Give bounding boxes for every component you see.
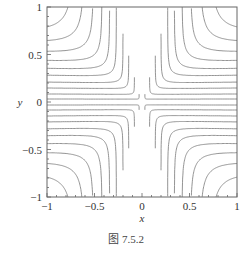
figure-caption: 图 7.5.2	[0, 230, 252, 246]
contour-line	[191, 153, 237, 196]
contour-line	[47, 7, 82, 40]
x-axis-label: x	[139, 212, 145, 224]
contour-line	[47, 164, 82, 197]
contour-line	[216, 6, 238, 27]
y-tick-label: 1	[37, 1, 43, 13]
contour-line	[145, 105, 237, 110]
contour-line	[150, 77, 237, 94]
contour-line	[47, 94, 139, 99]
contour-line	[47, 110, 134, 127]
x-tick-label: 0.5	[183, 200, 197, 212]
y-tick-label: −0.5	[22, 144, 42, 156]
contour-line	[150, 110, 237, 127]
y-axis-label: y	[17, 96, 23, 108]
contour-line	[47, 177, 69, 198]
contour-line	[202, 7, 237, 40]
contour-line	[47, 8, 116, 76]
contour-line	[182, 6, 237, 60]
x-tick-label: 0	[139, 200, 145, 212]
contour-line	[47, 105, 139, 110]
contour-line	[47, 6, 69, 27]
y-tick-label: 0	[37, 96, 43, 108]
contour-line	[182, 144, 237, 198]
contour-plot: −1−0.500.51 −1−0.500.51 x y	[0, 0, 252, 253]
y-tick-labels: −1−0.500.51	[22, 1, 42, 203]
axis-ticks	[47, 7, 237, 197]
contour-line	[145, 94, 237, 99]
contour-line	[168, 128, 237, 196]
x-tick-label: −1	[41, 200, 53, 212]
y-tick-label: 0.5	[28, 49, 42, 61]
contour-line	[216, 177, 238, 198]
contour-lines	[47, 6, 237, 199]
contour-line	[47, 77, 134, 94]
plot-frame	[47, 7, 237, 197]
contour-line	[202, 164, 237, 197]
x-tick-label: −0.5	[85, 200, 105, 212]
x-tick-label: 1	[234, 200, 240, 212]
x-tick-labels: −1−0.500.51	[41, 200, 240, 212]
y-tick-label: −1	[30, 191, 42, 203]
contour-line	[168, 8, 237, 76]
contour-line	[47, 153, 93, 196]
contour-line	[191, 8, 237, 51]
contour-line	[47, 128, 116, 196]
contour-line	[47, 8, 93, 51]
contour-line	[47, 144, 102, 198]
contour-line	[47, 6, 102, 60]
